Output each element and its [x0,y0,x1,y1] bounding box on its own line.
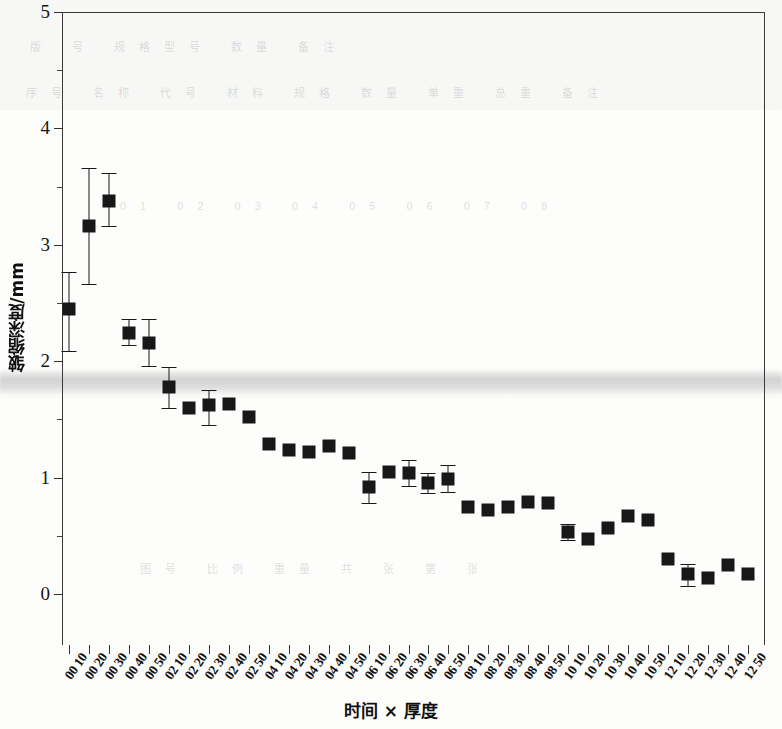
y-axis-title: 皱缩深度/mm [4,262,30,372]
y-tick-label-4: 4 [16,118,50,137]
y-tick-label-1: 1 [16,468,50,487]
chart-root: 版 号 规格型号 数量 备注 序号 名称 代号 材料 规格 数量 单重 总重 备… [0,0,782,729]
y-tick-label-5: 5 [16,2,50,21]
y-tick-label-3: 3 [16,235,50,254]
y-tick-label-0: 0 [16,584,50,603]
x-axis-title: 时间 × 厚度 [0,697,782,722]
y-axis-tick-labels: 012345 [0,0,782,729]
